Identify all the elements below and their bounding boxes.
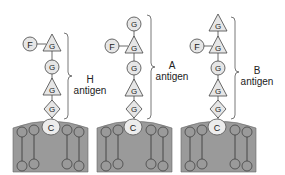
svg-text:F: F: [27, 40, 33, 50]
svg-text:G: G: [215, 87, 221, 96]
svg-text:G: G: [131, 44, 137, 53]
h-antigen-word: antigen: [70, 85, 110, 96]
svg-text:G: G: [131, 64, 137, 73]
antigen-diagram: F G G G G C G F G G: [0, 0, 285, 175]
a-antigen-word: antigen: [152, 71, 192, 82]
h-antigen-letter: H: [70, 74, 110, 85]
svg-text:G: G: [215, 64, 221, 73]
svg-text:G: G: [49, 105, 55, 114]
b-antigen-group: G F G G G G C: [181, 14, 256, 172]
svg-text:G: G: [215, 105, 221, 114]
svg-text:G: G: [49, 86, 55, 95]
svg-text:G: G: [49, 63, 55, 72]
h-antigen-label: H antigen: [70, 74, 110, 96]
svg-text:G: G: [131, 20, 137, 29]
b-antigen-letter: B: [237, 65, 277, 76]
svg-text:C: C: [130, 123, 137, 133]
svg-text:G: G: [215, 22, 221, 31]
svg-text:G: G: [49, 42, 55, 51]
svg-text:C: C: [214, 123, 221, 133]
svg-text:C: C: [48, 123, 55, 133]
svg-text:F: F: [109, 42, 115, 52]
svg-text:G: G: [215, 44, 221, 53]
svg-text:F: F: [194, 42, 200, 52]
b-antigen-label: B antigen: [237, 65, 277, 87]
svg-text:G: G: [131, 105, 137, 114]
h-antigen-group: F G G G G C: [13, 33, 88, 172]
svg-text:G: G: [131, 87, 137, 96]
a-antigen-letter: A: [152, 60, 192, 71]
a-antigen-label: A antigen: [152, 60, 192, 82]
b-antigen-word: antigen: [237, 76, 277, 87]
